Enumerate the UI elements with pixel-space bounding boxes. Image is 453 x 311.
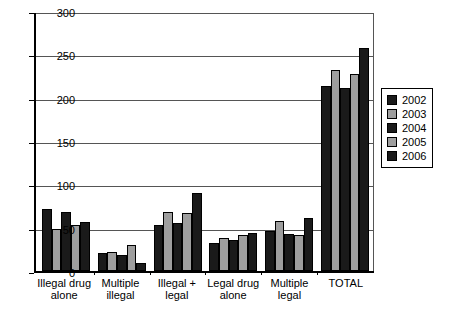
legend-label: 2006: [402, 151, 426, 162]
legend-item[interactable]: 2006: [387, 149, 426, 163]
y-tick-label: 150: [35, 138, 75, 149]
bar[interactable]: [275, 221, 285, 271]
bar[interactable]: [340, 88, 350, 271]
y-tick-label: 50: [35, 224, 75, 235]
y-tick-mark: [29, 186, 34, 187]
bar-group: [205, 13, 261, 271]
caption-ghost: [100, 300, 380, 310]
x-axis-label: Legal drugalone: [205, 277, 261, 301]
bar[interactable]: [265, 231, 275, 271]
bar[interactable]: [127, 245, 137, 271]
bar[interactable]: [209, 243, 219, 271]
bar[interactable]: [331, 70, 341, 271]
bars: [321, 13, 369, 271]
bar[interactable]: [359, 48, 369, 271]
legend: 20022003200420052006: [381, 88, 433, 168]
y-tick-label: 200: [35, 94, 75, 105]
bars: [209, 13, 257, 271]
legend-swatch-icon: [387, 95, 397, 105]
legend-swatch-icon: [387, 151, 397, 161]
y-tick-mark: [29, 13, 34, 14]
bar[interactable]: [219, 238, 229, 271]
bar[interactable]: [350, 74, 360, 271]
legend-label: 2004: [402, 123, 426, 134]
legend-label: 2003: [402, 109, 426, 120]
bar-group: [317, 13, 373, 271]
bar[interactable]: [107, 252, 117, 271]
x-tick-mark: [150, 271, 151, 275]
x-tick-mark: [205, 271, 206, 275]
x-axis-label-line: alone: [36, 289, 92, 301]
x-axis-label: Multiplelegal: [261, 277, 317, 301]
bar-groups: [38, 13, 373, 271]
legend-label: 2005: [402, 137, 426, 148]
bar[interactable]: [61, 212, 71, 271]
bar[interactable]: [284, 234, 294, 271]
x-axis-label-line: Multiple: [92, 277, 148, 289]
bar[interactable]: [173, 223, 183, 271]
bar[interactable]: [248, 233, 258, 271]
y-tick-label: 100: [35, 181, 75, 192]
legend-item[interactable]: 2002: [387, 93, 426, 107]
x-axis-label: Illegal +legal: [149, 277, 205, 301]
legend-swatch-icon: [387, 109, 397, 119]
bar[interactable]: [294, 235, 304, 271]
x-axis-label-line: Illegal +: [149, 277, 205, 289]
legend-item[interactable]: 2003: [387, 107, 426, 121]
x-tick-mark: [261, 271, 262, 275]
bar[interactable]: [117, 255, 127, 271]
bars: [154, 13, 202, 271]
x-tick-mark: [317, 271, 318, 275]
y-tick-mark: [29, 230, 34, 231]
legend-swatch-icon: [387, 137, 397, 147]
legend-swatch-icon: [387, 123, 397, 133]
y-tick-mark: [29, 273, 34, 274]
plot-area: [34, 13, 374, 273]
bar[interactable]: [163, 212, 173, 271]
bar[interactable]: [229, 240, 239, 271]
y-tick-label: 300: [35, 8, 75, 19]
y-tick-label: 250: [35, 51, 75, 62]
bar-group: [261, 13, 317, 271]
plot-right-border: [373, 13, 374, 271]
bar[interactable]: [192, 193, 202, 271]
x-tick-mark: [94, 271, 95, 275]
legend-label: 2002: [402, 95, 426, 106]
bar[interactable]: [98, 253, 108, 271]
bar[interactable]: [80, 222, 90, 271]
bar[interactable]: [304, 218, 314, 271]
bar[interactable]: [136, 263, 146, 271]
bar-group: [150, 13, 206, 271]
y-tick-mark: [29, 143, 34, 144]
x-axis-label-line: Multiple: [261, 277, 317, 289]
bar[interactable]: [154, 225, 164, 271]
bar[interactable]: [238, 235, 248, 271]
bars: [265, 13, 313, 271]
x-axis-labels: Illegal drugaloneMultipleillegalIllegal …: [36, 277, 374, 301]
bars: [98, 13, 146, 271]
x-axis-label-line: Illegal drug: [36, 277, 92, 289]
bar[interactable]: [42, 209, 52, 271]
x-axis-label-line: TOTAL: [318, 277, 374, 289]
x-axis-label: Multipleillegal: [92, 277, 148, 301]
chart-figure: 050100150200250300 Illegal drugaloneMult…: [0, 0, 453, 311]
y-tick-mark: [29, 100, 34, 101]
x-axis-label: Illegal drugalone: [36, 277, 92, 301]
y-tick-mark: [29, 56, 34, 57]
legend-item[interactable]: 2005: [387, 135, 426, 149]
x-axis-label-line: Legal drug: [205, 277, 261, 289]
bar-group: [94, 13, 150, 271]
bar[interactable]: [182, 213, 192, 271]
bar[interactable]: [321, 86, 331, 271]
legend-item[interactable]: 2004: [387, 121, 426, 135]
x-axis-label: TOTAL: [318, 277, 374, 301]
